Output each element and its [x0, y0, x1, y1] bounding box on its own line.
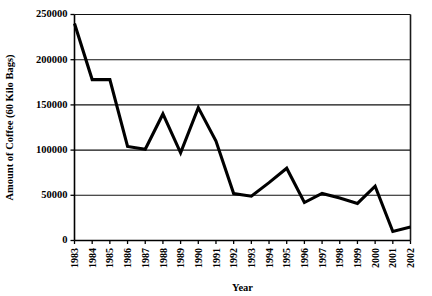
x-tick-label-2001: 2001	[387, 248, 398, 268]
x-tick-label-1986: 1986	[122, 248, 133, 268]
x-tick-label-1989: 1989	[175, 248, 186, 268]
x-tick-label-1988: 1988	[158, 248, 169, 268]
x-tick-label-1999: 1999	[352, 248, 363, 268]
x-tick-label-1996: 1996	[299, 248, 310, 268]
y-tick-label-250000: 250000	[36, 8, 68, 19]
coffee-amount-line-chart: 0500001000001500002000002500001983198419…	[0, 0, 432, 296]
axis-spines	[75, 15, 411, 241]
x-axis-title: Year	[232, 282, 253, 293]
x-tick-label-1997: 1997	[317, 248, 328, 268]
y-tick-label-0: 0	[62, 234, 67, 245]
x-tick-label-1983: 1983	[69, 248, 80, 268]
data-series-line	[75, 24, 411, 232]
x-tick-label-2000: 2000	[370, 248, 381, 268]
x-tick-label-1998: 1998	[334, 248, 345, 268]
y-tick-label-50000: 50000	[41, 189, 67, 200]
x-tick-label-1984: 1984	[87, 248, 98, 268]
chart-canvas: 0500001000001500002000002500001983198419…	[0, 0, 432, 296]
x-tick-label-1991: 1991	[211, 248, 222, 268]
x-tick-label-2002: 2002	[405, 248, 416, 268]
x-tick-label-1985: 1985	[104, 248, 115, 268]
x-tick-label-1990: 1990	[193, 248, 204, 268]
y-axis-title: Amount of Coffee (60 Kilo Bags)	[4, 54, 16, 201]
x-tick-label-1992: 1992	[228, 248, 239, 268]
x-tick-label-1993: 1993	[246, 248, 257, 268]
x-tick-label-1987: 1987	[140, 248, 151, 268]
gridlines	[75, 15, 411, 196]
x-axis-ticks: 1983198419851986198719881989199019911992…	[69, 241, 416, 269]
x-tick-label-1994: 1994	[264, 248, 275, 268]
x-tick-label-1995: 1995	[281, 248, 292, 268]
y-tick-label-100000: 100000	[36, 144, 68, 155]
y-tick-label-150000: 150000	[36, 99, 68, 110]
y-tick-label-200000: 200000	[36, 54, 68, 65]
y-axis-ticks: 050000100000150000200000250000	[36, 8, 75, 245]
